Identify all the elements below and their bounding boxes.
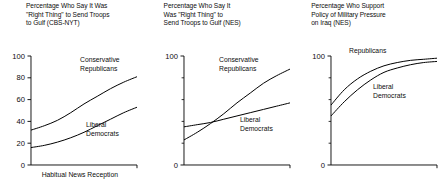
- panel-1-ytick-0: 0: [21, 161, 25, 170]
- panel-1-ytick-80: 80: [17, 73, 25, 82]
- panel-1-svg: 100 80 60 40 20 0 Conservative Republica…: [0, 46, 148, 190]
- chart-panel-1: Percentage Who Say It Was "Right Thing" …: [0, 0, 148, 190]
- panel-1-label-liberal-democrats-line1: Liberal: [86, 121, 107, 128]
- panel-2-label-liberal-democrats-line2: Democrats: [240, 125, 273, 132]
- panel-2-y-ticks: [180, 56, 183, 165]
- panel-1-ytick-20: 20: [17, 139, 25, 148]
- panel-3-ytick-0: 0: [321, 161, 325, 170]
- chart-panel-2: Percentage Who Say It Was "Right Thing" …: [148, 0, 296, 190]
- panel-3-y-ticks: [328, 56, 331, 165]
- panel-1-series-conservative-republicans-line: [31, 77, 137, 130]
- panel-3-label-conservative-republicans-line2: Republicans: [349, 47, 387, 55]
- panel-1-y-ticks: [27, 56, 30, 165]
- panel-1-ytick-60: 60: [17, 95, 25, 104]
- panel-1-ytick-40: 40: [17, 117, 25, 126]
- panel-1-series-liberal-democrats-line: [31, 107, 137, 147]
- chart-panel-3: Percentage Who Support Policy of Militar…: [295, 0, 443, 190]
- figure-three-panel-line-charts: Percentage Who Say It Was "Right Thing" …: [0, 0, 443, 190]
- panel-2-title: Percentage Who Say It Was "Right Thing" …: [148, 2, 296, 28]
- panel-3-title: Percentage Who Support Policy of Militar…: [295, 2, 443, 28]
- panel-2-label-liberal-democrats-line1: Liberal: [240, 116, 261, 123]
- panel-3-ytick-100: 100: [313, 52, 326, 61]
- panel-2-plot-area: 100 0 Conservative Republicans Liberal D…: [148, 46, 296, 190]
- panel-2-ytick-0: 0: [173, 161, 177, 170]
- panel-1-label-conservative-republicans-line2: Republicans: [80, 65, 118, 73]
- panel-3-plot-area: 100 0 Conservative Republicans Liberal D…: [295, 46, 443, 190]
- panel-2-series-conservative-republicans-line: [184, 69, 290, 140]
- panel-3-svg: 100 0 Conservative Republicans Liberal D…: [295, 46, 443, 190]
- panel-2-label-conservative-republicans-line2: Republicans: [219, 65, 257, 73]
- panel-1-title: Percentage Who Say It Was "Right Thing" …: [0, 2, 148, 28]
- panel-1-ytick-100: 100: [12, 52, 25, 61]
- panel-1-label-conservative-republicans-line1: Conservative: [80, 56, 120, 63]
- panel-1-plot-area: 100 80 60 40 20 0 Conservative Republica…: [0, 46, 148, 190]
- panel-1-label-liberal-democrats-line2: Democrats: [86, 130, 119, 137]
- panel-2-series-liberal-democrats-line: [184, 103, 290, 127]
- panel-3-label-liberal-democrats-line1: Liberal: [373, 83, 394, 90]
- panel-2-svg: 100 0 Conservative Republicans Liberal D…: [148, 46, 296, 190]
- panel-2-label-conservative-republicans-line1: Conservative: [219, 56, 259, 63]
- panel-3-label-liberal-democrats-line2: Democrats: [373, 92, 406, 99]
- panel-1-xaxis-label: Habitual News Reception: [0, 170, 148, 179]
- panel-2-ytick-100: 100: [165, 52, 178, 61]
